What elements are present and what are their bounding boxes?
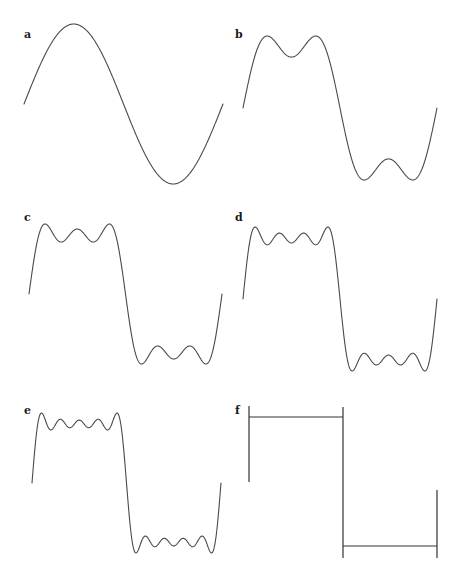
fourier-curve-c (29, 224, 222, 364)
panel-label-d: d (235, 211, 243, 224)
panel-c: c (24, 211, 222, 364)
square-wave-f (249, 406, 437, 558)
panel-f: f (235, 404, 437, 558)
fourier-curve-d (243, 227, 437, 371)
panel-label-b: b (235, 28, 243, 41)
fourier-curve-e (32, 413, 221, 553)
panel-b: b (235, 28, 437, 180)
fourier-curve-b (243, 36, 437, 180)
fourier-square-wave-figure: a b c d e f (0, 0, 460, 587)
panel-label-a: a (24, 28, 31, 41)
panel-label-c: c (24, 211, 31, 224)
panel-e: e (24, 404, 221, 553)
panel-label-f: f (235, 404, 241, 417)
fourier-curve-a (24, 24, 223, 184)
panel-d: d (235, 211, 437, 371)
panel-a: a (24, 24, 223, 184)
panel-label-e: e (24, 404, 31, 417)
